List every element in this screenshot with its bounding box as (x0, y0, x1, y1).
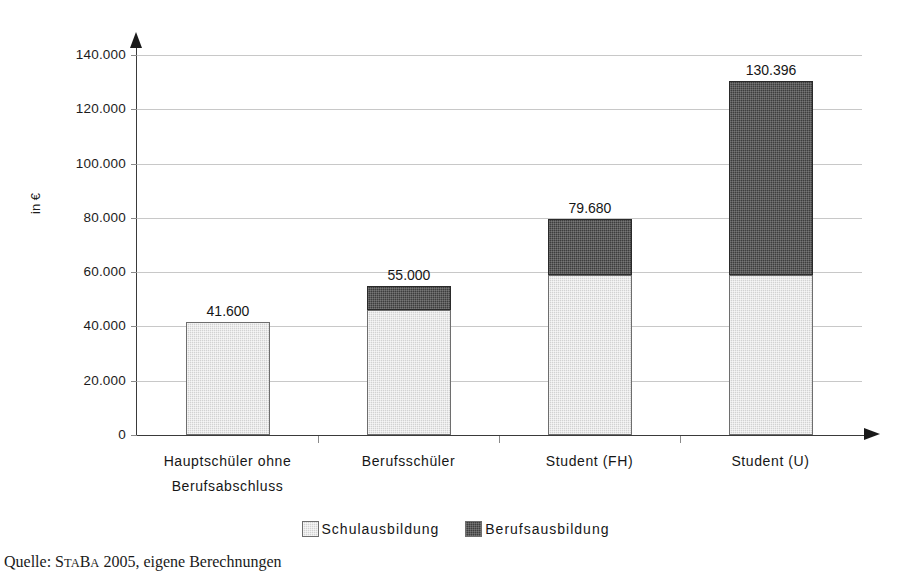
plot-area: 41.600 55.000 79.680 130.396 (137, 55, 862, 435)
y-axis-title: in € (28, 164, 43, 244)
legend-swatch-schulausbildung (302, 521, 319, 537)
bar-segment-berufsausbildung[interactable] (729, 81, 813, 275)
y-axis-line (136, 46, 137, 435)
y-tick-label-100000: 100.000 (6, 156, 126, 171)
x-label-student-fh: Student (FH) (499, 449, 680, 474)
bar-segment-schulausbildung[interactable] (548, 275, 632, 435)
y-tick-mark-140000 (131, 55, 137, 56)
x-label-line2: Berufsabschluss (137, 474, 318, 499)
legend-item-berufsausbildung[interactable]: Berufsausbildung (465, 521, 609, 537)
x-axis-category-labels: Hauptschüler ohne Berufsabschluss Berufs… (137, 449, 862, 509)
chart-legend: Schulausbildung Berufsausbildung (0, 521, 911, 537)
x-label-berufsschueler: Berufsschüler (318, 449, 499, 474)
x-label-line1: Student (FH) (499, 449, 680, 474)
y-tick-mark-80000 (131, 218, 137, 219)
bar-total-label: 41.600 (158, 303, 298, 319)
x-label-student-u: Student (U) (680, 449, 861, 474)
y-tick-label-120000: 120.000 (6, 101, 126, 116)
source-org-lead: S (55, 553, 64, 570)
x-axis-arrow-icon (864, 428, 880, 440)
x-tick-mark-2 (499, 436, 500, 443)
legend-label-berufsausbildung: Berufsausbildung (485, 521, 609, 537)
source-note: Quelle: STABA 2005, eigene Berechnungen (4, 553, 282, 571)
y-tick-label-140000: 140.000 (6, 47, 126, 62)
y-tick-mark-20000 (131, 381, 137, 382)
x-tick-mark-3 (680, 436, 681, 443)
y-tick-label-40000: 40.000 (6, 318, 126, 333)
bar-segment-berufsausbildung[interactable] (548, 219, 632, 275)
y-tick-mark-60000 (131, 272, 137, 273)
legend-label-schulausbildung: Schulausbildung (322, 521, 440, 537)
legend-item-schulausbildung[interactable]: Schulausbildung (302, 521, 440, 537)
y-tick-label-20000: 20.000 (6, 373, 126, 388)
source-prefix: Quelle: (4, 553, 55, 570)
bar-segment-berufsausbildung[interactable] (367, 286, 451, 310)
y-axis-tick-labels: 140.000 120.000 100.000 80.000 60.000 40… (0, 0, 126, 577)
y-tick-mark-120000 (131, 109, 137, 110)
bar-total-label: 130.396 (701, 62, 841, 78)
chart-container: 41.600 55.000 79.680 130.396 (0, 0, 911, 577)
y-axis-arrow-icon (130, 32, 142, 48)
y-tick-mark-0 (131, 435, 137, 436)
x-label-hauptschueler: Hauptschüler ohne Berufsabschluss (137, 449, 318, 499)
gridline-140000 (137, 55, 862, 56)
bar-segment-schulausbildung[interactable] (186, 322, 270, 435)
source-org-small1: TA (64, 556, 80, 570)
bar-total-label: 55.000 (339, 267, 479, 283)
bar-segment-schulausbildung[interactable] (729, 275, 813, 435)
x-label-line1: Hauptschüler ohne (137, 449, 318, 474)
bar-total-label: 79.680 (520, 200, 660, 216)
y-tick-label-80000: 80.000 (6, 210, 126, 225)
x-label-line1: Berufsschüler (318, 449, 499, 474)
source-suffix: 2005, eigene Berechnungen (99, 553, 281, 570)
x-tick-mark-1 (318, 436, 319, 443)
bar-segment-schulausbildung[interactable] (367, 310, 451, 435)
y-tick-label-60000: 60.000 (6, 264, 126, 279)
y-tick-mark-40000 (131, 326, 137, 327)
x-label-line1: Student (U) (680, 449, 861, 474)
x-axis-line (136, 435, 866, 436)
source-org-lead2: B (80, 553, 91, 570)
y-tick-label-0: 0 (6, 427, 126, 442)
y-tick-mark-100000 (131, 164, 137, 165)
legend-swatch-berufsausbildung (465, 521, 482, 537)
